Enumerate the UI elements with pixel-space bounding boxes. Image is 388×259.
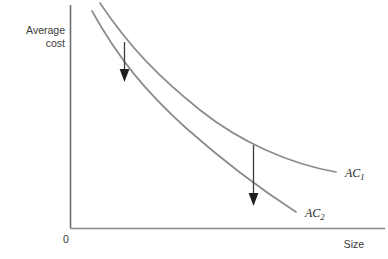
- shift-arrow-left: [120, 42, 130, 82]
- y-axis-label-line2: cost: [46, 37, 65, 49]
- curve-label-ac2-text: AC: [304, 206, 321, 220]
- average-cost-shift-figure: Average cost Size 0 AC1 AC2: [0, 0, 388, 259]
- x-axis-label: Size: [344, 238, 365, 250]
- curve-label-ac1: AC1: [344, 166, 365, 182]
- origin-label: 0: [63, 233, 69, 245]
- curve-ac2: [92, 11, 296, 212]
- curve-label-ac2-subscript: 2: [320, 212, 325, 222]
- curve-label-ac1-text: AC: [344, 166, 361, 180]
- chart-canvas: Average cost Size 0 AC1 AC2: [0, 0, 388, 259]
- shift-arrow-right: [249, 145, 259, 206]
- curve-ac1: [100, 3, 336, 172]
- curve-label-ac2: AC2: [304, 206, 325, 222]
- curve-label-ac1-subscript: 1: [360, 172, 364, 182]
- y-axis-label-line1: Average: [26, 24, 65, 36]
